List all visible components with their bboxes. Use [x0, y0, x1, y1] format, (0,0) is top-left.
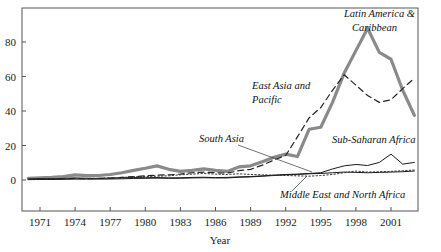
series-annotation-label: Pacific [251, 94, 282, 105]
series-line [28, 75, 414, 180]
y-tick-label: 0 [11, 174, 17, 186]
series-annotation-label: South Asia [199, 133, 244, 144]
x-tick-label: 1977 [99, 216, 122, 228]
chart-figure: 0204060801971197419771980198319861989199… [0, 0, 441, 252]
series-annotation-label: East Asia and [251, 80, 311, 91]
x-tick-label: 1971 [29, 216, 51, 228]
x-tick-label: 1995 [310, 216, 333, 228]
series-line [28, 28, 414, 178]
series-annotation-label: Sub-Saharan Africa [332, 134, 416, 145]
x-tick-label: 1992 [275, 216, 297, 228]
y-tick-label: 40 [5, 105, 17, 117]
y-tick-label: 60 [5, 71, 17, 83]
x-tick-label: 1980 [134, 216, 157, 228]
x-tick-label: 1986 [205, 216, 228, 228]
series-annotation-label: Caribbean [352, 22, 397, 33]
series-annotation-label: Latin America & [343, 8, 416, 19]
x-tick-label: 1983 [169, 216, 192, 228]
x-tick-label: 1974 [64, 216, 87, 228]
x-axis-title: Year [210, 234, 231, 246]
series-annotation-label: Middle East and North Africa [279, 189, 405, 200]
plot-frame [22, 8, 418, 211]
y-tick-label: 80 [5, 36, 17, 48]
x-tick-label: 2001 [380, 216, 402, 228]
x-tick-label: 1998 [345, 216, 368, 228]
chart-canvas: 0204060801971197419771980198319861989199… [0, 0, 441, 252]
x-tick-label: 1989 [240, 216, 263, 228]
y-tick-label: 20 [5, 140, 17, 152]
